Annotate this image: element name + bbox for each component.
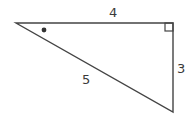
triangle-diagram: 4 3 5	[0, 0, 191, 116]
side-label-top: 4	[109, 5, 117, 20]
right-angle-marker	[165, 23, 173, 31]
triangle	[16, 23, 173, 112]
side-label-hypotenuse: 5	[82, 72, 90, 87]
angle-dot-marker	[42, 28, 47, 33]
side-label-right: 3	[177, 61, 185, 76]
